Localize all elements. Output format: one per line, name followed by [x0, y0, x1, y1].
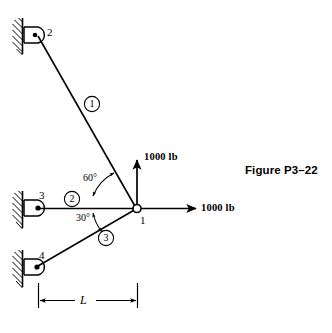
angle-60-label: 60° — [83, 173, 97, 183]
member-2-label: 2 — [65, 194, 79, 204]
angle-30-label: 30° — [76, 213, 90, 223]
member-3-label: 3 — [99, 233, 113, 243]
node-3-label: 3 — [39, 190, 45, 201]
support-4-wall-hatch — [13, 250, 23, 288]
node-2-label: 2 — [47, 27, 53, 38]
load-horizontal-label: 1000 lb — [201, 203, 235, 214]
support-2-wall-hatch — [13, 18, 23, 55]
dimension-label-L: L — [80, 294, 87, 306]
node-4-label: 4 — [39, 250, 45, 261]
figure-p3-22: 2 3 4 1 1 2 3 60° 30° 1000 lb 1000 lb L … — [0, 0, 332, 333]
dimension-line-L — [39, 283, 138, 308]
support-3-wall-hatch — [13, 191, 23, 229]
load-vertical-label: 1000 lb — [144, 152, 178, 163]
figure-caption: Figure P3–22 — [245, 165, 318, 177]
joint-1-node — [133, 205, 141, 213]
member-1-label: 1 — [85, 99, 99, 109]
support-4-pin-body — [24, 259, 44, 275]
node-1-label: 1 — [140, 215, 146, 226]
